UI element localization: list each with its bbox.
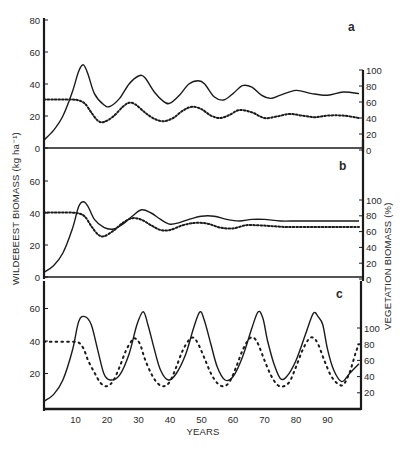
left-tick-label: 0 [35,143,40,154]
x-tick-label: 10 [70,414,81,425]
left-tick-label: 40 [29,79,40,90]
panel-a: 020406080020406080100a [29,15,381,156]
right-tick-label: 0 [366,145,371,156]
x-tick-label: 30 [133,414,144,425]
vegetation-line-c [44,337,359,386]
wildebeest-line-a [44,65,359,140]
x-tick-label: 50 [196,414,207,425]
right-tick-label: 80 [366,81,377,92]
right-tick-label: 40 [366,242,377,253]
right-tick-label: 40 [364,371,375,382]
right-tick-label: 20 [366,258,377,269]
x-tick-label: 20 [102,414,113,425]
left-tick-label: 0 [35,272,40,283]
panel-label-b: b [339,159,346,173]
right-tick-label: 60 [364,355,375,366]
x-tick-label: 90 [322,414,333,425]
left-tick-label: 20 [29,368,40,379]
left-tick-label: 60 [29,303,40,314]
right-tick-label: 100 [366,65,382,76]
x-tick-label: 70 [259,414,270,425]
left-tick-label: 20 [29,111,40,122]
right-tick-label: 100 [366,195,382,206]
panel-label-c: c [336,287,343,301]
right-tick-label: 0 [366,274,371,285]
x-tick-label: 40 [165,414,176,425]
right-tick-label: 80 [364,339,375,350]
left-tick-label: 80 [29,15,40,26]
wildebeest-line-c [44,311,359,401]
right-tick-label: 100 [364,323,380,334]
x-axis-label: YEARS [186,426,219,437]
panel-b: 0204060020406080100b [29,140,381,285]
panel-c: 20406020406080100102030405060708090c [29,281,379,425]
panel-label-a: a [348,20,355,34]
y-axis-label-right: VEGETATION BIOMASS (%) [382,202,393,330]
figure-canvas: 020406080020406080100a020406002040608010… [0,0,407,450]
wildebeest-line-b [44,202,359,272]
right-tick-label: 20 [366,129,377,140]
right-tick-label: 60 [366,97,377,108]
panels: 020406080020406080100a020406002040608010… [29,15,381,426]
right-tick-label: 60 [366,226,377,237]
right-tick-label: 20 [364,387,375,398]
left-tick-label: 40 [29,208,40,219]
left-tick-label: 20 [29,240,40,251]
x-tick-label: 80 [291,414,302,425]
left-tick-label: 40 [29,336,40,347]
axis-labels: WILDEBEEST BIOMASS (kg ha⁻¹) VEGETATION … [10,132,393,437]
left-tick-label: 60 [29,176,40,187]
right-tick-label: 40 [366,113,377,124]
left-tick-label: 60 [29,47,40,58]
right-tick-label: 80 [366,210,377,221]
x-tick-label: 60 [228,414,239,425]
y-axis-label-left: WILDEBEEST BIOMASS (kg ha⁻¹) [10,132,21,285]
vegetation-line-a [44,100,359,123]
